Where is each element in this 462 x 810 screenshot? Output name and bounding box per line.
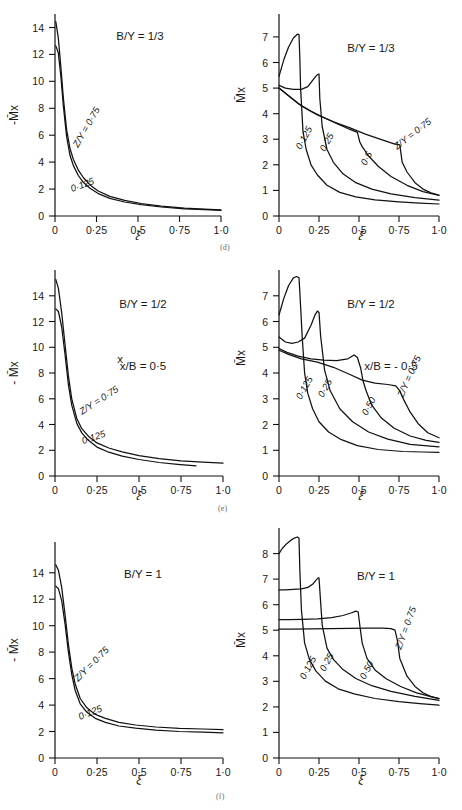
y-tick-label: 1	[262, 444, 268, 456]
x-tick-label: 0·25	[86, 766, 107, 778]
axes-f-right	[279, 528, 439, 758]
curve-annotation: 0·5	[358, 149, 374, 167]
y-tick-label: 2	[38, 444, 44, 456]
chart-d-right: 0 1 2 3 4 5 6 7 0 0·25 0·5 0·75 1·0 ξ	[231, 0, 462, 240]
curve-annotation: Z/Y = 0·75	[391, 115, 434, 152]
x-tick-label: 0	[276, 766, 282, 778]
curve-series	[279, 578, 439, 700]
x-tick-label: 1·0	[431, 484, 446, 496]
x-tick-label: 0	[52, 484, 58, 496]
y-tick-label: 12	[32, 48, 44, 60]
y-tick-label: 8	[262, 548, 268, 560]
x-tick-label: 1·0	[431, 224, 446, 236]
x-tick-label: 0·25	[308, 484, 329, 496]
y-tick-label: 6	[38, 673, 44, 685]
y-tick-label: 2	[262, 419, 268, 431]
y-tick-label: 0	[38, 470, 44, 482]
y-tick-labels-d-right: 0 1 2 3 4 5 6 7	[262, 31, 268, 222]
y-tick-label: 12	[32, 593, 44, 605]
y-axis-title: M̄x	[234, 350, 248, 366]
condition-label: B/Y = 1	[124, 568, 162, 580]
curves-f-left	[56, 565, 223, 733]
x-axis-title: ξ	[135, 229, 141, 240]
y-tick-label: 4	[262, 367, 268, 379]
y-tick-label: 5	[262, 624, 268, 636]
y-tick-label: 4	[38, 419, 44, 431]
y-tick-label: 7	[262, 31, 268, 43]
x-tick-label: 0·75	[169, 224, 190, 236]
panel-e-right: 0 1 2 3 4 5 6 7 0 0·25 0·5 0·75 1·0 ξ	[231, 258, 462, 500]
y-ticks-d-right	[273, 37, 279, 216]
x-tick-label: 0	[276, 484, 282, 496]
y-axis-title: - M̄x	[7, 361, 21, 384]
panel-d-right: 0 1 2 3 4 5 6 7 0 0·25 0·5 0·75 1·0 ξ	[231, 0, 462, 240]
y-tick-label: 0	[38, 210, 44, 222]
x-tick-label: 0	[52, 224, 58, 236]
curve-annotation: Z/Y = 0·75	[76, 383, 121, 417]
x-ticks-d-left	[55, 216, 221, 222]
condition-label: B/Y = 1/2	[119, 298, 166, 310]
y-tick-label: 12	[32, 316, 44, 328]
panel-f-left: 0 2 4 6 8 10 12 14 0 0·25 0·5 0·75 1·0 ξ	[0, 520, 231, 785]
curves-d-right	[279, 34, 439, 204]
y-tick-label: 3	[262, 393, 268, 405]
y-tick-label: 6	[262, 316, 268, 328]
y-tick-label: 4	[38, 156, 44, 168]
y-tick-label: 1	[262, 184, 268, 196]
y-tick-labels-e-right: 0 1 2 3 4 5 6 7	[262, 290, 268, 482]
curve-series	[279, 34, 439, 204]
y-tick-label: 6	[262, 57, 268, 69]
y-tick-label: 8	[38, 646, 44, 658]
curve-annotation: Z/Y = 0·75	[70, 104, 103, 149]
y-tick-label: 2	[38, 183, 44, 195]
ratio-subtitle: x/B = 0·5	[120, 360, 166, 372]
curve-annotation: Z/Y = 0·75	[71, 644, 111, 684]
condition-label: B/Y = 1/3	[347, 42, 394, 54]
y-axis-title: M̄x	[234, 632, 248, 648]
x-tick-label: 0·25	[86, 224, 107, 236]
x-tick-label: 1·0	[215, 766, 230, 778]
x-axis-title: ξ	[358, 489, 364, 500]
y-tick-labels-f-right: 0 1 2 3 4 5 6 7 8	[262, 548, 268, 764]
y-tick-label: 8	[38, 102, 44, 114]
x-tick-label: 0·25	[308, 224, 329, 236]
condition-label: B/Y = 1/3	[116, 30, 163, 42]
y-tick-label: 2	[262, 159, 268, 171]
y-tick-label: 6	[38, 393, 44, 405]
y-tick-label: 10	[32, 341, 44, 353]
y-tick-label: 4	[262, 108, 268, 120]
x-axis-title: ξ	[358, 773, 364, 785]
panel-row-f: 0 2 4 6 8 10 12 14 0 0·25 0·5 0·75 1·0 ξ	[0, 520, 462, 810]
x-tick-label: 0·75	[388, 224, 409, 236]
y-tick-label: 10	[32, 620, 44, 632]
curve-annotation: 0·125	[297, 654, 318, 681]
panel-e-left: 0 2 4 6 8 10 12 14 0 0·25 0·5 0·75 1·0 ξ	[0, 258, 231, 500]
y-axis-title: -M̄x	[7, 105, 21, 125]
y-tick-label: 7	[262, 573, 268, 585]
y-ticks-e-right	[273, 296, 279, 476]
curve-annotation: 0·50	[359, 394, 378, 417]
x-tick-label: 0·75	[388, 766, 409, 778]
y-ticks-d-left	[49, 28, 55, 217]
figure-sheet: 0 2 4 6 8 10 12 14 0 0·25 0·5 0·75 1·0 ξ	[0, 0, 462, 810]
y-tick-label: 2	[262, 701, 268, 713]
y-axis-title: - M̄x	[7, 638, 21, 661]
curve-annotation: Z/Y = 0·75	[392, 604, 418, 651]
y-tick-labels-e-left: 0 2 4 6 8 10 12 14	[32, 290, 44, 482]
y-tick-label: 0	[262, 470, 268, 482]
x-tick-label: 1·0	[431, 766, 446, 778]
y-tick-label: 2	[38, 726, 44, 738]
y-tick-label: 4	[38, 699, 44, 711]
ratio-annotation-e-left: x x/B = 0·5	[117, 353, 166, 372]
curve-annotation: 0·50	[357, 658, 376, 681]
chart-e-right: 0 1 2 3 4 5 6 7 0 0·25 0·5 0·75 1·0 ξ	[231, 258, 462, 500]
y-tick-label: 0	[262, 752, 268, 764]
x-tick-label: 1·0	[213, 224, 228, 236]
y-tick-label: 1	[262, 726, 268, 738]
x-tick-label: 0·75	[170, 766, 191, 778]
y-tick-label: 3	[262, 133, 268, 145]
y-tick-label: 7	[262, 290, 268, 302]
panel-caption-f: (f)	[216, 792, 225, 801]
x-ticks-e-left	[55, 476, 223, 482]
y-tick-label: 4	[262, 650, 268, 662]
